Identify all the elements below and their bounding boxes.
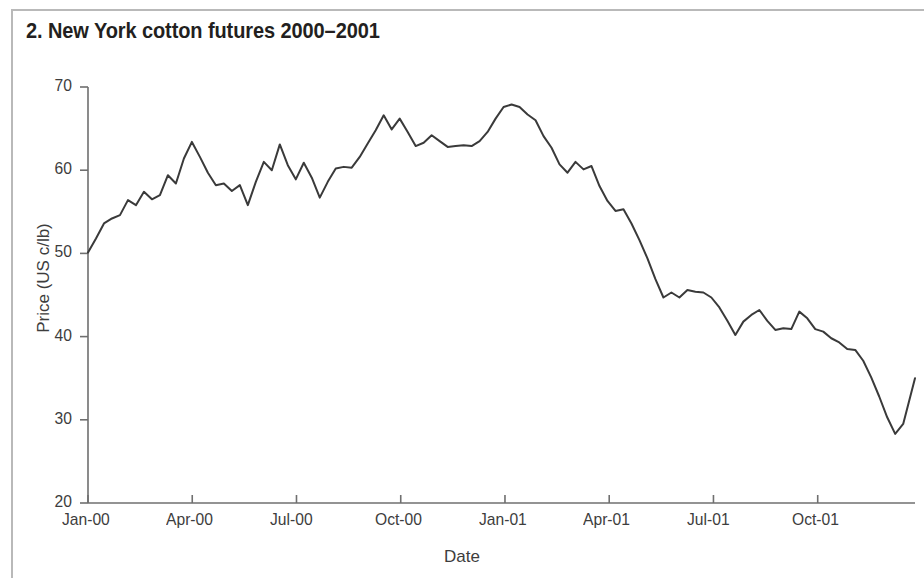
y-axis-tick-label: 40 bbox=[15, 326, 72, 346]
y-axis-tick-label: 20 bbox=[15, 492, 72, 512]
x-axis-tick-label: Oct-00 bbox=[375, 510, 449, 530]
x-axis-tick-label: Apr-01 bbox=[583, 510, 657, 530]
x-axis-tick-label: Jan-01 bbox=[479, 510, 553, 530]
x-axis-tick-label: Apr-00 bbox=[166, 510, 240, 530]
x-axis-tick-label: Jan-00 bbox=[62, 510, 136, 530]
y-axis-tick-label: 60 bbox=[15, 159, 72, 179]
series-line-0 bbox=[88, 104, 915, 433]
chart-series-lines bbox=[88, 104, 915, 433]
figure-panel: 2. New York cotton futures 2000–2001 Pri… bbox=[0, 0, 924, 578]
y-axis-tick-label: 30 bbox=[15, 409, 72, 429]
chart-axes bbox=[88, 87, 915, 503]
line-chart-plot bbox=[0, 0, 924, 578]
y-axis-tick-label: 70 bbox=[15, 76, 72, 96]
x-axis-tick-label: Oct-01 bbox=[792, 510, 866, 530]
x-axis-tick-label: Jul-01 bbox=[687, 510, 761, 530]
y-axis-tick-label: 50 bbox=[15, 242, 72, 262]
x-axis-tick-label: Jul-00 bbox=[270, 510, 344, 530]
